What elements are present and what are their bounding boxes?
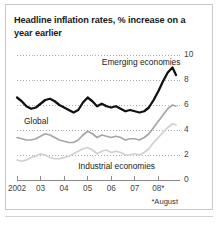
y-axis-tick-label: 2 [184, 149, 206, 159]
y-axis-tick-label: 4 [184, 124, 206, 134]
y-axis-tick-label: 10 [184, 49, 206, 59]
chart-figure: Headline inflation rates, % increase on … [0, 0, 218, 233]
footer-divider [5, 216, 213, 217]
x-axis-tick-label: 08* [143, 184, 173, 193]
series-annotation: Emerging economies [102, 57, 181, 67]
y-axis-tick-label: 6 [184, 99, 206, 109]
series-annotation: Industrial economies [78, 161, 155, 171]
chart-title: Headline inflation rates, % increase on … [14, 14, 192, 39]
chart-footnote: *August [151, 197, 178, 206]
y-axis-tick-label: 0 [184, 174, 206, 184]
y-axis-tick-label: 8 [184, 74, 206, 84]
series-annotation: Global [24, 116, 48, 126]
